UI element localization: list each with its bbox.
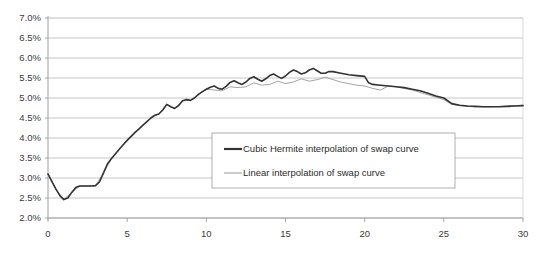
chart-container: 2.0%2.5%3.0%3.5%4.0%4.5%5.0%5.5%6.0%6.5%… xyxy=(0,0,542,253)
y-axis-tick-label: 3.0% xyxy=(19,172,41,183)
x-axis-tick-label: 15 xyxy=(280,228,291,239)
y-axis-tick-label: 6.5% xyxy=(19,32,41,43)
x-axis-tick-label: 10 xyxy=(201,228,212,239)
y-axis-tick-label: 3.5% xyxy=(19,152,41,163)
x-axis-tick-labels: 051015202530 xyxy=(45,228,528,239)
y-axis-tick-labels: 2.0%2.5%3.0%3.5%4.0%4.5%5.0%5.5%6.0%6.5%… xyxy=(19,12,41,223)
legend-label: Linear interpolation of swap curve xyxy=(243,167,385,178)
y-axis-tick-label: 7.0% xyxy=(19,12,41,23)
x-tick-marks xyxy=(48,218,523,222)
y-axis-tick-label: 2.0% xyxy=(19,212,41,223)
y-axis-tick-label: 5.5% xyxy=(19,72,41,83)
chart-legend: Cubic Hermite interpolation of swap curv… xyxy=(212,133,455,188)
x-axis-tick-label: 20 xyxy=(359,228,370,239)
y-axis-tick-label: 5.0% xyxy=(19,92,41,103)
x-axis-tick-label: 0 xyxy=(45,228,50,239)
legend-label: Cubic Hermite interpolation of swap curv… xyxy=(243,143,419,154)
legend-box xyxy=(212,133,455,188)
x-axis-tick-label: 25 xyxy=(439,228,450,239)
y-axis-tick-label: 2.5% xyxy=(19,192,41,203)
x-axis-tick-label: 30 xyxy=(518,228,529,239)
y-axis-tick-label: 4.0% xyxy=(19,132,41,143)
y-axis-tick-label: 6.0% xyxy=(19,52,41,63)
swap-curve-interpolation-chart: 2.0%2.5%3.0%3.5%4.0%4.5%5.0%5.5%6.0%6.5%… xyxy=(0,0,542,253)
x-axis-tick-label: 5 xyxy=(125,228,130,239)
y-axis-tick-label: 4.5% xyxy=(19,112,41,123)
